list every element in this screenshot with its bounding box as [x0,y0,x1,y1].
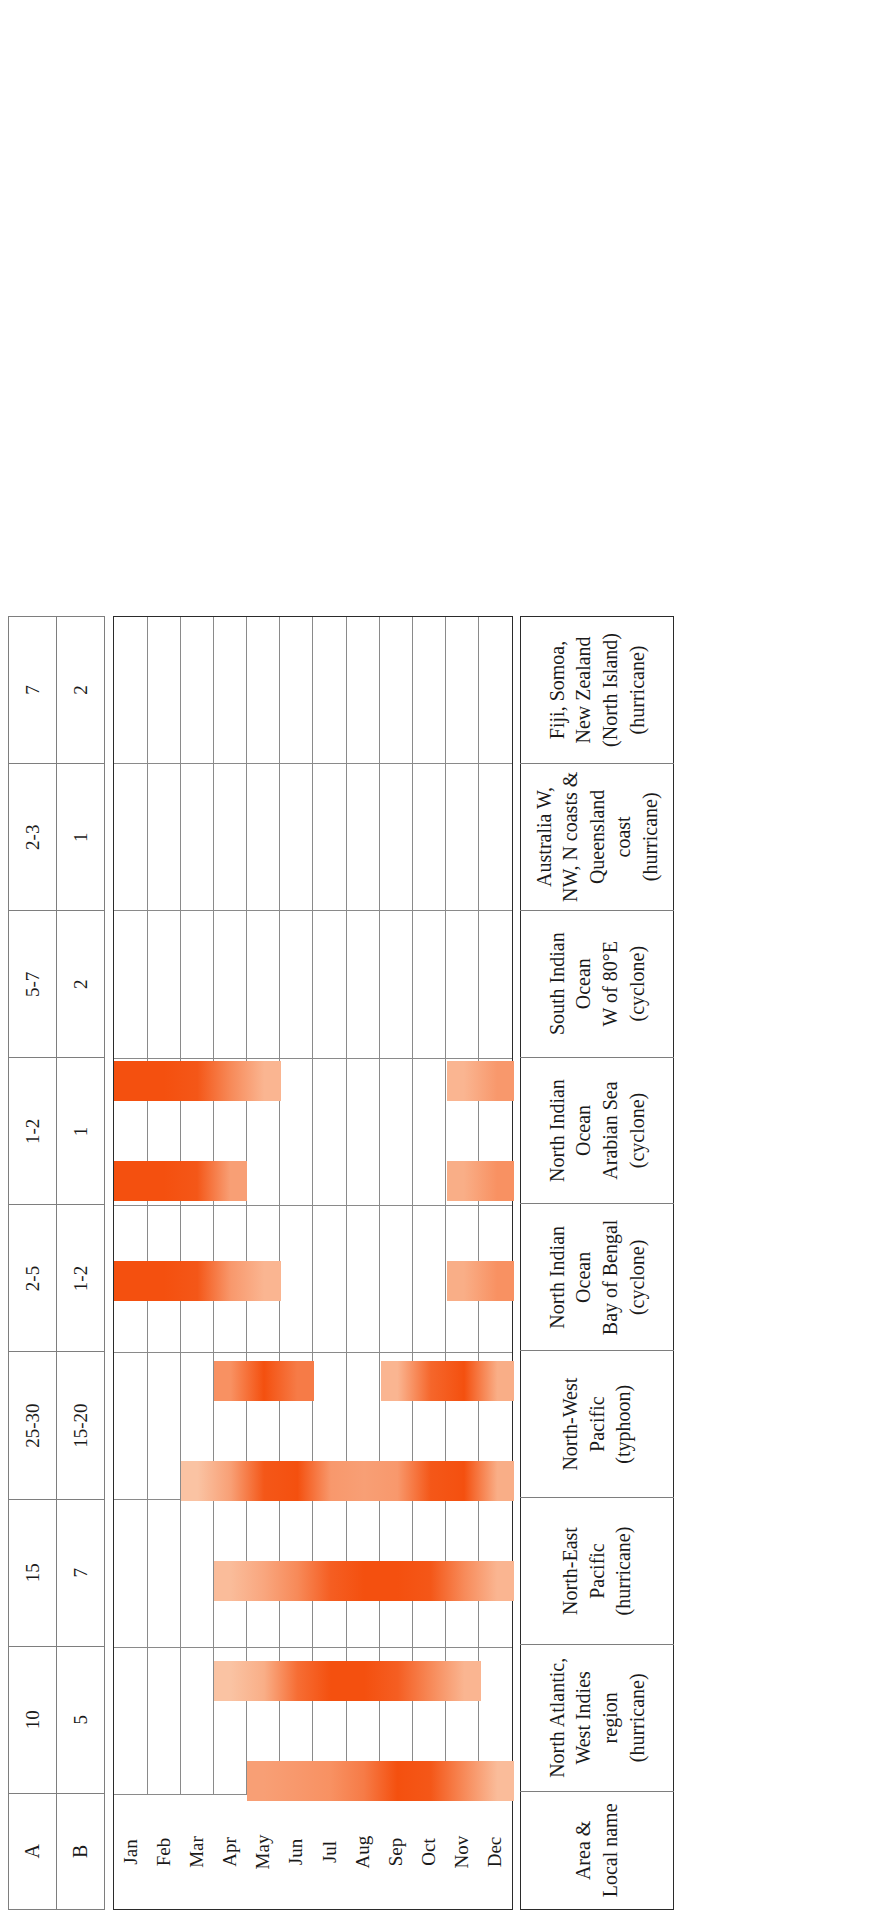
grid-cell [412,1205,445,1352]
value-a-7: 7 [9,617,57,764]
grid-row: Apr [213,617,246,1909]
grid-cell [213,1353,246,1500]
grid-cell [379,911,412,1058]
area-name-1: North-East Pacific (hurricane) [521,1498,674,1645]
area-name-4-line2: Arabian Sea (cyclone) [597,1064,650,1198]
grid-cell [213,617,246,764]
grid-cell [280,911,313,1058]
grid-cell [313,1647,346,1794]
area-names-table: Area & Local name North Atlantic, West I… [520,616,674,1910]
area-name-header: Area & Local name [521,1791,674,1909]
grid-row: Jan [114,617,147,1909]
value-b-7: 2 [57,617,105,764]
grid-cell [379,1647,412,1794]
month-label-feb: Feb [147,1795,180,1909]
area-name-6-line1: Australia W, NW, N coasts & [531,770,584,904]
grid-cell [446,1058,479,1205]
grid-cell [479,1500,512,1647]
grid-cell [346,1353,379,1500]
grid-cell [346,617,379,764]
grid-row: Mar [180,617,213,1909]
grid-cell [247,1647,280,1794]
area-name-4: North Indian Ocean Arabian Sea (cyclone) [521,1057,674,1204]
grid-cell [280,1058,313,1205]
area-name-3: North Indian Ocean Bay of Bengal (cyclon… [521,1204,674,1351]
grid-row: May [247,617,280,1909]
rotated-table-stage: A 10 15 25-30 2-5 1-2 5-7 2-3 7 B 5 7 15… [0,0,882,1928]
value-a-4: 1-2 [9,1058,57,1205]
month-label-may: May [247,1795,280,1909]
grid-row: Feb [147,617,180,1909]
grid-cell [213,1205,246,1352]
area-name-7-line2: (North Island) (hurricane) [597,623,650,757]
grid-cell [479,617,512,764]
grid-cell [412,1058,445,1205]
grid-cell [446,1647,479,1794]
area-name-7-line1: Fiji, Somoa, New Zealand [544,623,597,757]
month-label-mar: Mar [180,1795,213,1909]
table-row-b: B 5 7 15-20 1-2 1 2 1 2 [57,617,105,1910]
grid-cell [379,617,412,764]
area-name-7: Fiji, Somoa, New Zealand (North Island) … [521,617,674,764]
value-a-2: 25-30 [9,1352,57,1499]
area-name-0-line1: North Atlantic, West Indies [544,1651,597,1785]
grid-cell [346,1058,379,1205]
grid-cell [213,1500,246,1647]
grid-row: Jun [280,617,313,1909]
grid-cell [180,1500,213,1647]
grid-cell [114,1058,147,1205]
area-name-6-line2: Queensland coast (hurricane) [584,770,664,904]
area-name-3-line2: Bay of Bengal (cyclone) [597,1210,650,1344]
grid-cell [412,617,445,764]
month-label-sep: Sep [379,1795,412,1909]
grid-cell [247,1500,280,1647]
grid-cell [114,764,147,911]
grid-cell [313,617,346,764]
value-b-3: 1-2 [57,1205,105,1352]
row-header-a: A [9,1793,57,1909]
grid-cell [180,764,213,911]
grid-cell [346,1500,379,1647]
grid-cell [446,1500,479,1647]
grid-cell [147,617,180,764]
area-name-6: Australia W, NW, N coasts & Queensland c… [521,763,674,910]
grid-cell [114,617,147,764]
season-grid: Jan Feb Mar [113,616,513,1910]
value-b-0: 5 [57,1646,105,1793]
grid-cell [280,617,313,764]
month-label-dec: Dec [479,1795,512,1909]
month-label-jul: Jul [313,1795,346,1909]
area-name-5-line1: South Indian Ocean [544,917,597,1051]
area-name-2-line1: North-West Pacific (typhoon) [557,1357,637,1491]
area-name-5-line2: W of 80°E (cyclone) [597,917,650,1051]
row-header-b: B [57,1793,105,1909]
grid-cell [379,1205,412,1352]
grid-cell [147,1205,180,1352]
grid-cell [280,1500,313,1647]
grid-cell [180,911,213,1058]
grid-cell [280,1647,313,1794]
grid-cell [479,1353,512,1500]
grid-row: Sep [379,617,412,1909]
grid-cell [479,1058,512,1205]
grid-cell [147,764,180,911]
grid-cell [412,1647,445,1794]
grid-cell [379,764,412,911]
grid-cell [180,1205,213,1352]
grid-cell [446,617,479,764]
grid-cell [247,1205,280,1352]
value-b-5: 2 [57,911,105,1058]
month-label-aug: Aug [346,1795,379,1909]
grid-cell [114,911,147,1058]
grid-cell [412,1500,445,1647]
grid-cell [147,911,180,1058]
grid-cell [313,1500,346,1647]
area-name-0-line2: region (hurricane) [597,1651,650,1785]
grid-cell [147,1647,180,1794]
month-grid-table: Jan Feb Mar [114,617,512,1909]
grid-row: Nov [446,617,479,1909]
grid-cell [313,911,346,1058]
value-a-6: 2-3 [9,764,57,911]
month-label-jun: Jun [280,1795,313,1909]
grid-cell [213,911,246,1058]
